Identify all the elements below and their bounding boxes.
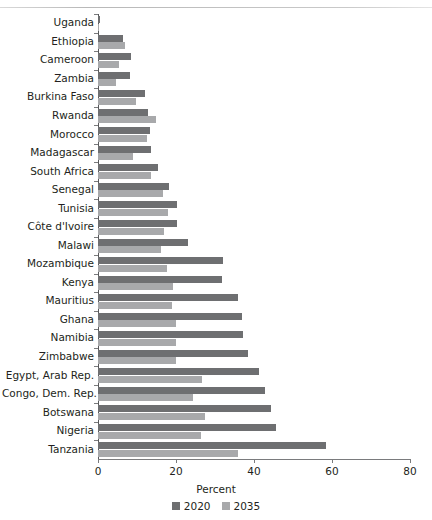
- y-axis-tick: [94, 162, 98, 163]
- bar-2020-tanzania: [98, 442, 326, 449]
- bar-2035-mauritius: [98, 302, 172, 309]
- plot-area: [98, 14, 410, 459]
- y-axis-tick: [94, 422, 98, 423]
- bar-2020-senegal: [98, 183, 169, 190]
- bar-2035-nigeria: [98, 432, 201, 439]
- x-axis-tick-label: 40: [234, 465, 274, 477]
- category-label: South Africa: [2, 166, 94, 177]
- bar-2035-rwanda: [98, 116, 156, 123]
- category-label: Rwanda: [2, 110, 94, 121]
- x-axis-tick: [176, 459, 177, 463]
- x-axis-tick: [98, 459, 99, 463]
- bar-2020-egypt-arab-rep: [98, 368, 259, 375]
- y-axis-tick: [94, 274, 98, 275]
- bar-2020-congo-dem-rep: [98, 387, 265, 394]
- y-axis-tick: [94, 107, 98, 108]
- bar-2020-madagascar: [98, 146, 151, 153]
- bar-2035-zimbabwe: [98, 357, 176, 364]
- bar-2020-zambia: [98, 72, 130, 79]
- bar-2035-cameroon: [98, 61, 119, 68]
- category-label: Kenya: [2, 277, 94, 288]
- legend-item-2035: 2035: [222, 500, 261, 512]
- category-label: Senegal: [2, 184, 94, 195]
- bar-2035-congo-dem-rep: [98, 394, 193, 401]
- category-label: Mauritius: [2, 295, 94, 306]
- x-axis-tick-label: 60: [312, 465, 352, 477]
- bar-2020-c-te-d-ivoire: [98, 220, 177, 227]
- bar-2035-mozambique: [98, 265, 167, 272]
- category-label: Madagascar: [2, 147, 94, 158]
- bar-2035-namibia: [98, 339, 176, 346]
- category-label: Egypt, Arab Rep.: [2, 370, 94, 381]
- bar-2035-zambia: [98, 79, 116, 86]
- category-label: Nigeria: [2, 425, 94, 436]
- y-axis-tick: [94, 51, 98, 52]
- bar-2020-nigeria: [98, 424, 276, 431]
- y-axis-tick: [94, 88, 98, 89]
- category-label: Botswana: [2, 407, 94, 418]
- bar-2020-zimbabwe: [98, 350, 248, 357]
- bar-2035-tunisia: [98, 209, 168, 216]
- bar-2020-cameroon: [98, 53, 131, 60]
- x-axis-tick-label: 80: [390, 465, 430, 477]
- y-axis-tick: [94, 366, 98, 367]
- bar-2035-botswana: [98, 413, 205, 420]
- x-axis-tick: [254, 459, 255, 463]
- y-axis-tick: [94, 292, 98, 293]
- y-axis-tick: [94, 440, 98, 441]
- category-label: Côte d'Ivoire: [2, 221, 94, 232]
- category-label: Burkina Faso: [2, 91, 94, 102]
- x-axis-tick: [332, 459, 333, 463]
- bar-2020-uganda: [98, 16, 100, 23]
- category-label: Congo, Dem. Rep.: [2, 388, 94, 399]
- x-axis-tick: [410, 459, 411, 463]
- y-axis-tick: [94, 218, 98, 219]
- category-label: Tanzania: [2, 444, 94, 455]
- y-axis-tick: [94, 33, 98, 34]
- bar-2035-ghana: [98, 320, 176, 327]
- bar-2020-kenya: [98, 276, 222, 283]
- x-axis-tick-label: 0: [78, 465, 118, 477]
- bar-2035-south-africa: [98, 172, 151, 179]
- bar-2035-tanzania: [98, 450, 238, 457]
- y-axis-tick: [94, 181, 98, 182]
- bar-2035-burkina-faso: [98, 98, 136, 105]
- legend-label-2020: 2020: [184, 500, 211, 512]
- category-label: Zimbabwe: [2, 351, 94, 362]
- legend-label-2035: 2035: [234, 500, 261, 512]
- legend-item-2020: 2020: [172, 500, 211, 512]
- bar-2020-ethiopia: [98, 35, 123, 42]
- bar-2020-morocco: [98, 127, 150, 134]
- bar-2035-madagascar: [98, 153, 133, 160]
- bar-2035-malawi: [98, 246, 161, 253]
- y-axis-tick: [94, 348, 98, 349]
- category-label: Uganda: [2, 17, 94, 28]
- y-axis-tick: [94, 385, 98, 386]
- category-label: Morocco: [2, 129, 94, 140]
- bar-2020-rwanda: [98, 109, 148, 116]
- category-label: Mozambique: [2, 258, 94, 269]
- bar-2020-burkina-faso: [98, 90, 145, 97]
- category-label: Tunisia: [2, 203, 94, 214]
- category-axis-labels: UgandaEthiopiaCameroonZambiaBurkina Faso…: [0, 14, 94, 459]
- bar-2020-mozambique: [98, 257, 223, 264]
- y-axis-tick: [94, 199, 98, 200]
- category-label: Namibia: [2, 332, 94, 343]
- y-axis-tick: [94, 14, 98, 15]
- category-label: Malawi: [2, 240, 94, 251]
- bar-2020-tunisia: [98, 201, 177, 208]
- category-label: Ethiopia: [2, 36, 94, 47]
- y-axis-tick: [94, 144, 98, 145]
- y-axis-tick: [94, 311, 98, 312]
- legend-swatch-2020: [172, 502, 180, 510]
- bar-2035-c-te-d-ivoire: [98, 228, 164, 235]
- bar-2020-mauritius: [98, 294, 238, 301]
- category-label: Ghana: [2, 314, 94, 325]
- bar-2020-namibia: [98, 331, 243, 338]
- x-axis-title: Percent: [0, 483, 432, 495]
- category-label: Zambia: [2, 73, 94, 84]
- bar-2020-malawi: [98, 239, 188, 246]
- y-axis-tick: [94, 329, 98, 330]
- chart-legend: 2020 2035: [0, 500, 432, 512]
- bar-2020-south-africa: [98, 164, 158, 171]
